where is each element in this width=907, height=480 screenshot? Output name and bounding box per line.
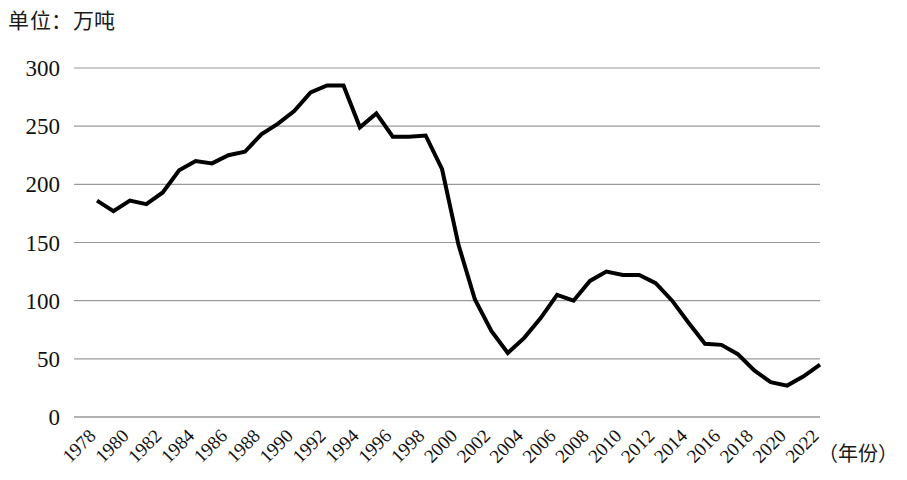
x-axis-tick-label: 1986: [190, 425, 232, 467]
x-axis-tick-label: 2010: [584, 425, 626, 467]
x-axis-tick-label: 2008: [551, 425, 593, 467]
x-axis-tick-label: 1978: [58, 425, 100, 467]
x-axis-tick-label: 1988: [222, 425, 264, 467]
x-axis-tick-label: 2000: [420, 425, 462, 467]
y-axis-tick-label: 100: [26, 289, 61, 314]
x-axis-tick-label: 2018: [715, 425, 757, 467]
x-axis-tick-label: 2006: [518, 425, 560, 467]
x-axis-tick-label: 1996: [354, 425, 396, 467]
x-axis-tick-label: 2016: [683, 425, 725, 467]
x-axis-tick-label: 2012: [617, 425, 659, 467]
y-axis-tick-labels: 050100150200250300: [26, 56, 61, 430]
x-axis-tick-label: 1990: [255, 425, 297, 467]
line-chart: 单位：万吨 050100150200250300 197819801982198…: [0, 0, 907, 480]
x-axis-tick-label: 1992: [288, 425, 330, 467]
x-axis-caption: （年份）: [818, 438, 898, 467]
x-axis-tick-label: 2020: [748, 425, 790, 467]
x-axis-tick-label: 1982: [124, 425, 166, 467]
x-axis-tick-label: 1998: [387, 425, 429, 467]
x-axis-tick-label: 2014: [650, 425, 692, 467]
x-axis-tick-label: 2004: [485, 425, 527, 467]
y-axis-tick-label: 300: [26, 56, 61, 81]
chart-plot-svg: 050100150200250300 197819801982198419861…: [0, 0, 907, 480]
y-axis-tick-label: 50: [37, 347, 60, 372]
x-axis-tick-labels: 1978198019821984198619881990199219941996…: [58, 425, 823, 467]
y-axis-tick-label: 150: [26, 231, 61, 256]
x-axis-tick-label: 1994: [321, 425, 363, 467]
series-path: [97, 85, 820, 385]
y-axis-tick-label: 200: [26, 172, 61, 197]
x-axis-tick-label: 2002: [452, 425, 494, 467]
x-axis-tick-label: 1984: [157, 425, 199, 467]
y-axis-tick-label: 0: [49, 405, 61, 430]
x-axis-tick-label: 2022: [781, 425, 823, 467]
data-series-line: [97, 85, 820, 385]
x-axis-tick-label: 1980: [91, 425, 133, 467]
y-axis-tick-label: 250: [26, 114, 61, 139]
gridlines: [74, 68, 820, 417]
